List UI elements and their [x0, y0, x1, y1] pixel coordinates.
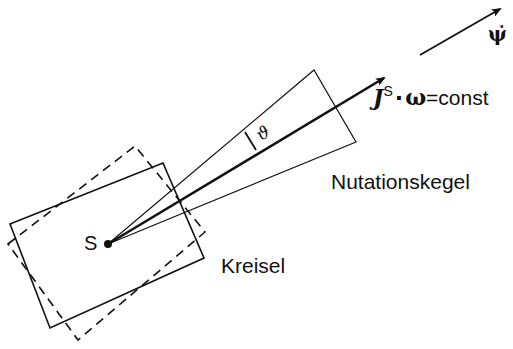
- theta-angle-marker: [245, 132, 256, 150]
- angular-momentum-vector: [108, 78, 384, 244]
- nutation-cone-label: Nutationskegel: [331, 170, 470, 194]
- omega-symbol: ω: [405, 84, 426, 110]
- equals-const: =const: [426, 86, 488, 109]
- nutation-cone: [108, 70, 356, 244]
- angular-momentum-label: JS·ω=const: [373, 83, 489, 110]
- gyroscope-label: Kreisel: [221, 254, 285, 278]
- psi-dot-label: ψ̇: [488, 22, 507, 46]
- j-symbol: J: [373, 84, 383, 110]
- dot-operator: ·: [395, 85, 403, 110]
- superscript-s: S: [383, 83, 392, 99]
- diagram-canvas: ψ̇ JS·ω=const ϑ Nutationskegel Kreisel S: [0, 0, 513, 349]
- center-point-dot: [104, 240, 112, 248]
- center-point-label: S: [84, 232, 97, 255]
